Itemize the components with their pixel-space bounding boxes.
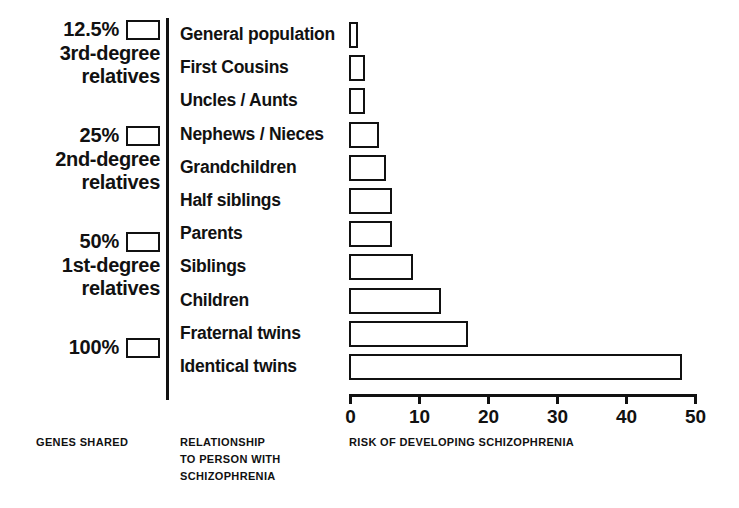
- genes-percent-label: 12.5%: [63, 18, 119, 42]
- x-axis-tick-label: 20: [478, 407, 499, 426]
- bar: [349, 288, 441, 314]
- genes-degree-line-2: relatives: [55, 171, 160, 195]
- caption-genes-shared: GENES SHARED: [36, 434, 128, 451]
- empty-box-swatch-icon: [126, 338, 160, 358]
- genes-group-100: 100%: [69, 336, 160, 360]
- relationship-label: Identical twins: [180, 358, 297, 376]
- genes-percent-label: 100%: [69, 336, 119, 360]
- genes-group-50: 50% 1st-degree relatives: [62, 230, 160, 301]
- empty-box-swatch-icon: [126, 20, 160, 40]
- relationship-label: Nephews / Nieces: [180, 126, 324, 144]
- bar: [349, 188, 392, 214]
- genes-percent-label: 25%: [80, 124, 119, 148]
- genes-group-25: 25% 2nd-degree relatives: [55, 124, 160, 195]
- column-divider: [166, 18, 169, 400]
- bar: [349, 88, 365, 114]
- bar: [349, 122, 379, 148]
- empty-box-swatch-icon: [126, 126, 160, 146]
- genes-percent-row: 12.5%: [60, 18, 160, 42]
- x-axis-tick: [556, 394, 559, 404]
- relationship-label: Half siblings: [180, 192, 281, 210]
- genes-shared-column: 12.5% 3rd-degree relatives 25% 2nd-degre…: [12, 18, 160, 400]
- genes-percent-row: 100%: [69, 336, 160, 360]
- genes-percent-row: 50%: [62, 230, 160, 254]
- bar-plot-area: 01020304050: [349, 18, 729, 400]
- genes-degree-line-1: 1st-degree: [62, 254, 160, 278]
- relationship-label: Siblings: [180, 258, 246, 276]
- x-axis-line: [349, 394, 697, 397]
- relationship-label-column: General populationFirst CousinsUncles / …: [180, 18, 348, 400]
- genes-degree-line-1: 3rd-degree: [60, 42, 160, 66]
- x-axis-tick-label: 40: [616, 407, 637, 426]
- genes-degree-line-1: 2nd-degree: [55, 148, 160, 172]
- bar: [349, 22, 358, 48]
- relationship-label: General population: [180, 26, 335, 44]
- x-axis-tick-label: 30: [547, 407, 568, 426]
- bar: [349, 354, 682, 380]
- schizophrenia-risk-figure: 12.5% 3rd-degree relatives 25% 2nd-degre…: [0, 0, 739, 508]
- genes-group-12-5: 12.5% 3rd-degree relatives: [60, 18, 160, 89]
- caption-risk: RISK OF DEVELOPING SCHIZOPHRENIA: [349, 434, 574, 451]
- relationship-label: Fraternal twins: [180, 325, 301, 343]
- x-axis-tick: [694, 394, 697, 404]
- relationship-label: First Cousins: [180, 59, 289, 77]
- x-axis-tick-label: 10: [409, 407, 430, 426]
- relationship-label: Parents: [180, 225, 242, 243]
- genes-percent-row: 25%: [55, 124, 160, 148]
- x-axis-tick: [487, 394, 490, 404]
- bar: [349, 55, 365, 81]
- x-axis-tick: [349, 394, 352, 404]
- relationship-label: Children: [180, 292, 249, 310]
- x-axis-tick: [418, 394, 421, 404]
- genes-percent-label: 50%: [80, 230, 119, 254]
- genes-degree-line-2: relatives: [60, 65, 160, 89]
- genes-degree-line-2: relatives: [62, 277, 160, 301]
- bar: [349, 221, 392, 247]
- x-axis-tick-label: 0: [345, 407, 356, 426]
- caption-relationship: RELATIONSHIP TO PERSON WITH SCHIZOPHRENI…: [180, 434, 281, 485]
- relationship-label: Uncles / Aunts: [180, 92, 297, 110]
- x-axis-tick-label: 50: [685, 407, 706, 426]
- bar: [349, 321, 468, 347]
- empty-box-swatch-icon: [126, 232, 160, 252]
- bar: [349, 155, 386, 181]
- relationship-label: Grandchildren: [180, 159, 296, 177]
- bar: [349, 254, 413, 280]
- x-axis-tick: [625, 394, 628, 404]
